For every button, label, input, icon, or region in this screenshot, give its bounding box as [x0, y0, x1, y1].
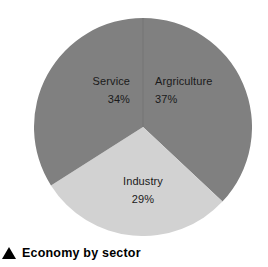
pie-label-industry: Industry 29% [103, 172, 183, 208]
pie-label-service-value: 34% [62, 90, 130, 108]
triangle-up-icon [2, 247, 16, 259]
figure-caption-text: Economy by sector [22, 246, 141, 260]
pie-label-industry-name: Industry [123, 175, 163, 187]
pie-label-agriculture-value: 37% [155, 90, 245, 108]
pie-label-agriculture: Argriculture 37% [155, 72, 245, 108]
figure-caption: Economy by sector [2, 243, 141, 263]
pie-label-industry-value: 29% [103, 190, 183, 208]
pie-label-agriculture-name: Argriculture [155, 75, 212, 87]
pie-label-service: Service 34% [62, 72, 130, 108]
economy-by-sector-figure: Service 34% Argriculture 37% Industry 29… [0, 0, 268, 267]
pie-label-service-name: Service [93, 75, 130, 87]
